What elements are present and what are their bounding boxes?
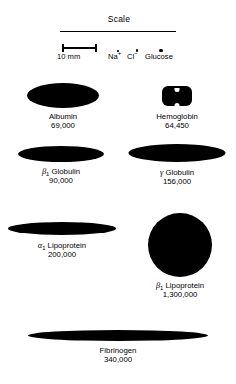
beta1-globulin-shape	[18, 146, 104, 162]
scale-markers-row: 10 mm Na+ Cl− Glucose	[0, 38, 236, 64]
hemoglobin-notch-top	[175, 88, 180, 92]
fibrinogen-caption-wrap: Fibrinogen 340,000	[0, 346, 236, 365]
alpha1-lipoprotein-caption-wrap: α1 Lipoprotein 200,000	[0, 241, 124, 260]
gamma-globulin-shape	[129, 144, 226, 162]
hemoglobin-notch-bottom	[175, 103, 180, 107]
hemoglobin-molecular-weight: 64,450	[118, 121, 236, 130]
scale-divider-rule	[60, 31, 176, 32]
albumin-molecular-weight: 69,000	[4, 121, 122, 130]
scale-heading: Scale	[0, 14, 236, 24]
alpha1-lipoprotein-shape	[8, 222, 116, 235]
hemoglobin-shape	[162, 86, 192, 106]
gamma-globulin-name: γ Globulin	[118, 168, 236, 177]
albumin-name: Albumin	[4, 112, 122, 121]
alpha1-lipoprotein-molecular-weight: 200,000	[0, 250, 124, 259]
beta1-lipoprotein-caption-wrap: β1 Lipoprotein 1,300,000	[124, 281, 236, 300]
fibrinogen-shape	[28, 330, 208, 341]
glucose-label: Glucose	[145, 52, 173, 61]
hemoglobin-caption-wrap: Hemoglobin 64,450	[118, 112, 236, 131]
scale-ruler-bar	[62, 47, 97, 49]
beta1-globulin-name: β1 Globulin	[2, 167, 120, 176]
beta1-globulin-molecular-weight: 90,000	[2, 176, 120, 185]
fibrinogen-molecular-weight: 340,000	[0, 355, 236, 364]
sodium-ion-label: Na+	[108, 52, 121, 61]
fibrinogen-name: Fibrinogen	[0, 346, 236, 355]
alpha1-lipoprotein-name: α1 Lipoprotein	[0, 241, 124, 250]
gamma-globulin-molecular-weight: 156,000	[118, 177, 236, 186]
chloride-ion-label: Cl−	[127, 52, 138, 61]
beta1-lipoprotein-molecular-weight: 1,300,000	[124, 290, 236, 299]
beta1-lipoprotein-name: β1 Lipoprotein	[124, 281, 236, 290]
beta1-globulin-caption-wrap: β1 Globulin 90,000	[2, 167, 120, 186]
gamma-globulin-caption-wrap: γ Globulin 156,000	[118, 168, 236, 187]
hemoglobin-name: Hemoglobin	[118, 112, 236, 121]
albumin-shape	[27, 83, 99, 108]
albumin-caption-wrap: Albumin 69,000	[4, 112, 122, 131]
scale-block: Scale	[0, 14, 236, 24]
scale-bar-label: 10 mm	[57, 52, 80, 61]
plasma-protein-size-diagram: Scale 10 mm Na+ Cl− Glucose Albumin 69,0…	[0, 0, 236, 384]
beta1-lipoprotein-shape	[148, 213, 212, 277]
